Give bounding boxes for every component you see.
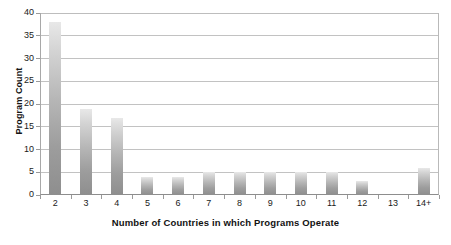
x-tick-label: 5 (132, 199, 162, 208)
x-tick-mark (101, 195, 102, 199)
bar (141, 177, 153, 195)
gridline (41, 149, 438, 150)
y-tick-mark (36, 126, 40, 127)
bar-chart: Program Count 0510152025303540 234567891… (0, 0, 451, 245)
bar (80, 109, 92, 195)
bar (326, 172, 338, 195)
bar (111, 118, 123, 195)
x-tick-mark (439, 195, 440, 199)
x-tick-mark (132, 195, 133, 199)
x-tick-label: 8 (225, 199, 255, 208)
gridline (41, 104, 438, 105)
y-tick-label: 25 (12, 76, 34, 85)
x-tick-mark (255, 195, 256, 199)
y-tick-mark (36, 13, 40, 14)
x-tick-label: 14+ (409, 199, 439, 208)
y-tick-mark (36, 81, 40, 82)
bar (356, 181, 368, 195)
gridline (41, 126, 438, 127)
x-tick-label: 3 (71, 199, 101, 208)
x-tick-label: 12 (347, 199, 377, 208)
x-tick-mark (347, 195, 348, 199)
x-tick-mark (378, 195, 379, 199)
bar (295, 172, 307, 195)
y-tick-mark (36, 149, 40, 150)
x-tick-label: 6 (163, 199, 193, 208)
y-tick-mark (36, 104, 40, 105)
x-tick-label: 13 (378, 199, 408, 208)
x-tick-label: 9 (255, 199, 285, 208)
y-tick-label: 15 (12, 122, 34, 131)
bar (203, 172, 215, 195)
bar (264, 172, 276, 195)
y-tick-label: 20 (12, 99, 34, 108)
bar (172, 177, 184, 195)
gridline (41, 13, 438, 14)
x-axis-title: Number of Countries in which Programs Op… (0, 217, 451, 228)
x-tick-label: 10 (286, 199, 316, 208)
bar (49, 22, 61, 195)
x-tick-mark (71, 195, 72, 199)
gridline (41, 81, 438, 82)
bar (234, 172, 246, 195)
x-tick-mark (193, 195, 194, 199)
x-tick-label: 4 (102, 199, 132, 208)
gridline (41, 58, 438, 59)
x-tick-mark (316, 195, 317, 199)
x-tick-label: 2 (40, 199, 70, 208)
y-tick-mark (36, 35, 40, 36)
x-tick-mark (286, 195, 287, 199)
x-tick-label: 11 (317, 199, 347, 208)
y-tick-label: 0 (12, 190, 34, 199)
y-tick-label: 35 (12, 31, 34, 40)
gridline (41, 35, 438, 36)
y-tick-mark (36, 58, 40, 59)
x-tick-mark (408, 195, 409, 199)
y-tick-label: 40 (12, 8, 34, 17)
x-tick-mark (163, 195, 164, 199)
y-tick-label: 30 (12, 54, 34, 63)
x-tick-label: 7 (194, 199, 224, 208)
y-tick-label: 10 (12, 145, 34, 154)
bar (418, 168, 430, 195)
y-tick-label: 5 (12, 167, 34, 176)
y-tick-mark (36, 172, 40, 173)
x-tick-mark (40, 195, 41, 199)
x-tick-mark (224, 195, 225, 199)
plot-area (40, 13, 439, 195)
